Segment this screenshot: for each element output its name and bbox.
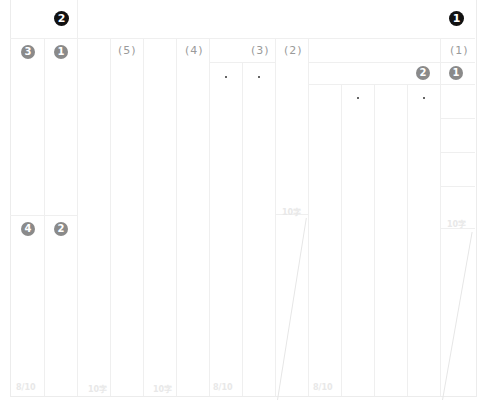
section-label-3: (3) [251,44,270,57]
column-divider [77,0,78,396]
column-divider [440,38,441,396]
left-badge-3: 3 [21,45,35,59]
section-3-count: 8/10 [213,383,233,392]
section-label-1: (1) [450,44,469,57]
section-4-count: 10字 [153,383,172,394]
column-divider [308,38,309,396]
section-2-count: 10字 [282,206,301,217]
column-divider [209,38,210,396]
left-badge-1: 1 [54,45,68,59]
left-badge-4: 4 [21,222,35,236]
header-badge-right: 1 [449,11,464,26]
header-badge-left: 2 [54,11,69,26]
column-divider [44,38,45,396]
row-divider [440,186,475,187]
left-badge-2: 2 [54,222,68,236]
column-divider [341,84,342,396]
section-label-4: (4) [185,44,204,57]
column-divider [176,38,177,396]
row-divider [308,84,475,85]
mark-dot [258,76,260,78]
row-divider [209,62,275,63]
column-divider [407,84,408,396]
sub-badge-2: 2 [416,66,430,80]
row-divider [440,118,475,119]
row-divider [440,152,475,153]
sub-badge-1: 1 [449,66,463,80]
column-divider [242,62,243,396]
column-divider [143,38,144,396]
section-5-count: 10字 [88,383,107,394]
row-divider [10,215,77,216]
column-divider [275,38,276,396]
subsection-count: 8/10 [313,383,333,392]
section-label-5: (5) [118,44,137,57]
row-divider [308,62,475,63]
column-divider [374,84,375,396]
left-footer-count: 8/10 [16,383,36,392]
mark-dot [225,76,227,78]
mark-dot [357,97,359,99]
mark-dot [423,97,425,99]
section-1-count: 10字 [447,218,466,229]
section-label-2: (2) [284,44,303,57]
header-divider [10,38,475,39]
column-divider [110,38,111,396]
